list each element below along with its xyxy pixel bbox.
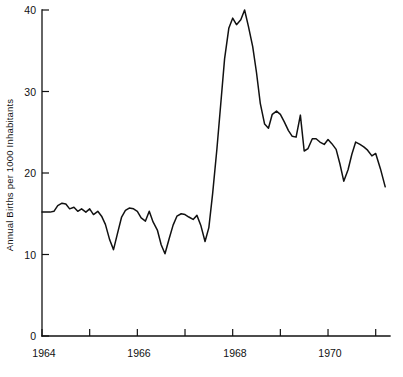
y-axis-title: Annual Births per 1000 Inhabitants: [4, 99, 15, 252]
y-tick-label: 30: [24, 86, 36, 98]
birth-rate-line: [42, 10, 385, 254]
x-tick-label: 1964: [32, 347, 56, 359]
x-tick-label: 1970: [318, 347, 342, 359]
chart-axes: [42, 10, 390, 336]
y-tick-label: 0: [30, 330, 36, 342]
y-tick-label: 10: [24, 249, 36, 261]
y-tick-label: 20: [24, 167, 36, 179]
x-axis-tick-labels: 1964 1966 1968 1970: [32, 347, 342, 359]
birth-rate-chart: Annual Births per 1000 Inhabitants 40 30…: [0, 0, 403, 377]
y-tick-label: 40: [24, 4, 36, 16]
y-axis-tick-labels: 40 30 20 10 0: [24, 4, 36, 342]
x-tick-label: 1968: [223, 347, 247, 359]
chart-svg: Annual Births per 1000 Inhabitants 40 30…: [0, 0, 403, 377]
x-tick-label: 1966: [127, 347, 151, 359]
